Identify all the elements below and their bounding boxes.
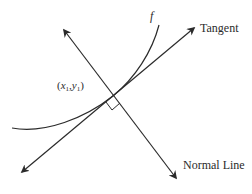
point-close-paren: ) [80, 79, 84, 91]
curve-label-f: f [150, 10, 153, 22]
tangent-line [22, 28, 194, 172]
tangent-label: Tangent [200, 22, 238, 34]
normal-line-label: Normal Line [183, 159, 245, 171]
right-angle-marker [106, 102, 120, 110]
point-label: (x1,y1) [57, 80, 84, 93]
curve-f [12, 25, 159, 129]
normal-line [64, 30, 176, 178]
